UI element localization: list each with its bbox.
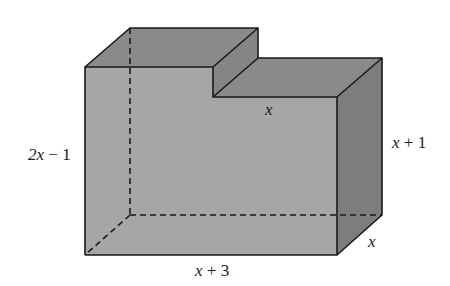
label-height-right: x + 1 <box>391 133 426 152</box>
label-length-bottom: x + 3 <box>194 261 229 280</box>
stepped-prism-diagram: 2x − 1 x + 1 x x + 3 x <box>0 0 450 286</box>
label-depth: x <box>367 232 376 251</box>
label-height-left: 2x − 1 <box>28 145 71 164</box>
label-step-width: x <box>264 100 273 119</box>
